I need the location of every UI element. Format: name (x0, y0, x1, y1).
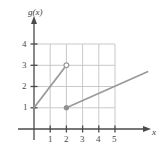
grid-lines-horizontal (34, 44, 115, 108)
y-axis-arrow-icon (31, 16, 37, 24)
y-axis-title: g(x) (28, 8, 43, 17)
x-axis-title: x (152, 128, 156, 137)
x-tick-label-1: 1 (48, 135, 53, 144)
open-circle-endpoint-marker (64, 63, 69, 68)
x-tick-label-4: 4 (96, 135, 101, 144)
x-tick-label-3: 3 (80, 135, 85, 144)
x-axis (18, 126, 151, 132)
graph-figure: g(x) x 4 3 2 1 1 2 3 4 5 (0, 0, 163, 154)
y-tick-label-1: 1 (23, 103, 28, 112)
x-tick-label-5: 5 (112, 135, 117, 144)
closed-dot-endpoint-marker (64, 106, 69, 111)
y-tick-label-3: 3 (22, 61, 27, 70)
y-axis (31, 16, 37, 140)
function-segment-2 (66, 72, 147, 108)
y-tick-label-4: 4 (22, 40, 27, 49)
y-tick-label-2: 2 (22, 82, 27, 91)
function-graph-plot (0, 0, 163, 154)
x-tick-label-2: 2 (64, 135, 69, 144)
x-axis-arrow-icon (143, 126, 151, 132)
